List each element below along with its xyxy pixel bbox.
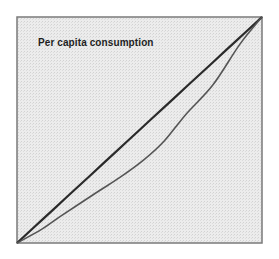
chart-title: Per capita consumption — [38, 37, 154, 48]
lorenz-chart: Per capita consumption — [0, 0, 279, 259]
